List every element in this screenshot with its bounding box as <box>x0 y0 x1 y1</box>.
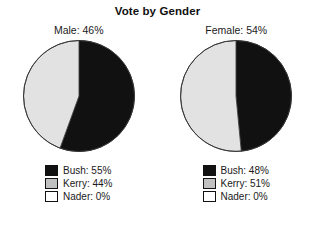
legend-swatch-nader-icon <box>45 191 58 202</box>
legend-label: Bush: 55% <box>63 165 111 176</box>
pie-panel-female-label: Female: 54% <box>205 24 267 36</box>
pie-panel-female: Female: 54% Bush: 48% Kerry: 51% Nader: … <box>158 24 316 203</box>
legend-swatch-kerry-icon <box>45 178 58 189</box>
legend-label: Nader: 0% <box>63 191 110 202</box>
pie-chart-male <box>21 38 137 154</box>
pie-panel-male-label: Male: 46% <box>54 24 104 36</box>
legend-swatch-bush-icon <box>45 165 58 176</box>
legend-male: Bush: 55% Kerry: 44% Nader: 0% <box>45 164 112 203</box>
legend-label: Kerry: 44% <box>63 178 112 189</box>
legend-swatch-bush-icon <box>203 165 216 176</box>
legend-label: Bush: 48% <box>221 165 269 176</box>
legend-item: Bush: 55% <box>45 164 111 176</box>
legend-item: Kerry: 44% <box>45 177 112 189</box>
pie-chart-female <box>178 38 294 154</box>
legend-swatch-nader-icon <box>203 191 216 202</box>
chart-title: Vote by Gender <box>0 5 315 17</box>
pie-slice-kerry <box>181 41 242 152</box>
legend-female: Bush: 48% Kerry: 51% Nader: 0% <box>203 164 270 203</box>
legend-item: Kerry: 51% <box>203 177 270 189</box>
legend-label: Nader: 0% <box>221 191 268 202</box>
legend-item: Bush: 48% <box>203 164 269 176</box>
legend-label: Kerry: 51% <box>221 178 270 189</box>
pie-panel-male: Male: 46% Bush: 55% Kerry: 44% Nader: 0% <box>0 24 158 203</box>
legend-item: Nader: 0% <box>203 190 268 202</box>
legend-swatch-kerry-icon <box>203 178 216 189</box>
pie-slice-bush <box>236 40 292 151</box>
pie-panels: Male: 46% Bush: 55% Kerry: 44% Nader: 0%… <box>0 24 315 203</box>
chart-figure: Vote by Gender Male: 46% Bush: 55% Kerry… <box>0 0 315 242</box>
legend-item: Nader: 0% <box>45 190 110 202</box>
